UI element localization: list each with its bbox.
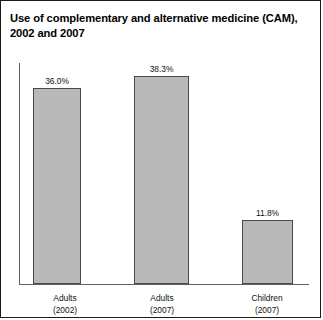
bar-children-2007 (242, 220, 293, 284)
chart-title: Use of complementary and alternative med… (10, 11, 310, 40)
figure-frame: Use of complementary and alternative med… (0, 0, 321, 318)
category-year: (2007) (217, 305, 317, 317)
bar-value-label-adults-2007: 38.3% (134, 64, 189, 74)
category-year: (2002) (15, 305, 115, 317)
bar-adults-2007 (134, 76, 189, 284)
category-name: Adults (112, 293, 212, 305)
category-year: (2007) (112, 305, 212, 317)
bar-adults-2002 (33, 88, 81, 284)
category-label-children-2007: Children (2007) (217, 293, 317, 316)
category-name: Adults (15, 293, 115, 305)
category-name: Children (217, 293, 317, 305)
bar-value-label-adults-2002: 36.0% (33, 76, 81, 86)
y-axis-line (19, 63, 20, 284)
bar-value-label-children-2007: 11.8% (242, 208, 293, 218)
plot-area: 36.0% 38.3% 11.8% (19, 61, 309, 285)
category-label-adults-2002: Adults (2002) (15, 293, 115, 316)
category-label-adults-2007: Adults (2007) (112, 293, 212, 316)
x-axis-baseline (19, 284, 309, 285)
